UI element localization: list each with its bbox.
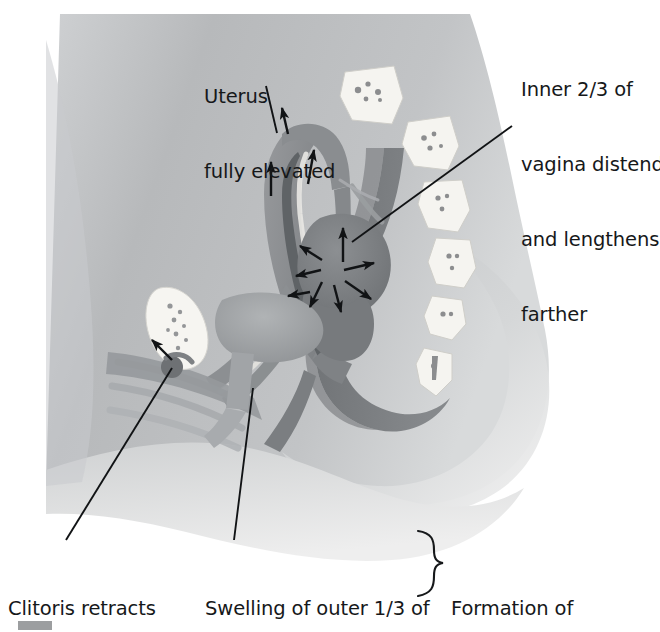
label-inner-line2: vagina distends	[521, 152, 660, 177]
label-inner-line4: farther	[521, 302, 660, 327]
illustration-stage: Uterus fully elevated Inner 2/3 of vagin…	[0, 0, 660, 632]
label-clitoris: Clitoris retracts under foreskin	[8, 546, 156, 632]
label-swelling: Swelling of outer 1/3 of vagina and labi…	[205, 546, 439, 632]
label-swelling-line1: Swelling of outer 1/3 of	[205, 596, 439, 621]
label-clitoris-line1: Clitoris retracts	[8, 596, 156, 621]
label-formation-line1: Formation of	[451, 596, 646, 621]
label-inner-line1: Inner 2/3 of	[521, 77, 660, 102]
label-inner-vagina: Inner 2/3 of vagina distends and lengthe…	[521, 27, 660, 377]
label-formation: Formation of “orgasmic platform”	[451, 546, 646, 632]
label-uterus-line1: Uterus	[204, 84, 335, 109]
scan-artifact-mark	[18, 621, 52, 630]
label-inner-line3: and lengthens	[521, 227, 660, 252]
label-uterus-line2: fully elevated	[204, 159, 335, 184]
label-uterus: Uterus fully elevated	[204, 34, 335, 234]
